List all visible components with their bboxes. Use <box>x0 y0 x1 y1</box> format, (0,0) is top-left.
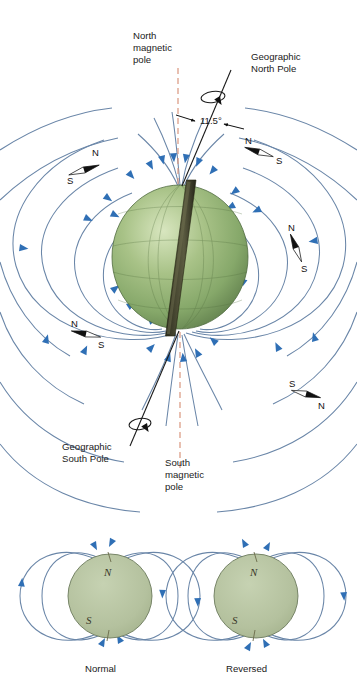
geographic-south-pole-line-1: Geographic <box>62 441 112 452</box>
compass-upper-left-n-label: N <box>92 147 99 158</box>
compass-mid-left-n-label: N <box>71 318 78 329</box>
reversed-caption: Reversed <box>226 663 267 674</box>
geographic-north-pole-line-2: North Pole <box>251 63 296 74</box>
south-magnetic-pole-line-3: pole <box>165 481 183 492</box>
normal-south-label: S <box>86 614 92 626</box>
compass-lower-right-s-label: S <box>289 378 295 389</box>
north-magnetic-pole-line-1: North <box>133 30 156 41</box>
north-magnetic-pole-line-2: magnetic <box>133 42 172 53</box>
south-magnetic-pole-line-2: magnetic <box>165 469 204 480</box>
magnetic-field-figure: 11.5° North magnetic pole Geographic Nor… <box>0 0 357 677</box>
tilt-angle-label: 11.5° <box>200 115 222 126</box>
label-geographic-south-pole: Geographic South Pole <box>62 441 112 464</box>
reversed-south-label: S <box>232 614 238 626</box>
geographic-south-pole-line-2: South Pole <box>62 453 109 464</box>
normal-caption: Normal <box>85 663 116 674</box>
figure-canvas: 11.5° North magnetic pole Geographic Nor… <box>0 0 357 677</box>
compass-mid-right-n-label: N <box>288 222 295 233</box>
geographic-north-pole-line-1: Geographic <box>251 51 301 62</box>
compass-upper-left-s-label: S <box>67 175 73 186</box>
north-magnetic-pole-line-3: pole <box>133 54 151 65</box>
compass-upper-right-n-label: N <box>245 135 252 146</box>
south-magnetic-pole-line-1: South <box>165 457 190 468</box>
normal-north-label: N <box>103 566 112 578</box>
compass-mid-left-s-label: S <box>98 339 104 350</box>
compass-lower-right-n-label: N <box>318 400 325 411</box>
compass-upper-right-s-label: S <box>276 155 282 166</box>
reversed-north-label: N <box>249 566 258 578</box>
label-geographic-north-pole: Geographic North Pole <box>251 51 301 74</box>
compass-mid-right-s-label: S <box>301 263 307 274</box>
